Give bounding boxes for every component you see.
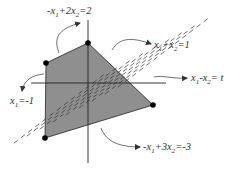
lp-feasible-region-diagram: -x1+2x2=2 x1+x2=1 x1-x2= t x1=-1 -x1+3x2… xyxy=(0,0,243,173)
arrow-to-constraint-bottom xyxy=(101,128,140,147)
arrow-to-objective-line xyxy=(154,76,187,78)
vertex-upper-left xyxy=(43,60,49,66)
objective-level-line xyxy=(105,24,197,94)
label-constraint-bottom: -x1+3x2=-3 xyxy=(143,141,191,155)
feasible-region xyxy=(45,43,153,138)
objective-level-lines xyxy=(14,17,210,143)
label-constraint-top-right: x1+x2=1 xyxy=(153,39,190,53)
vertex-top xyxy=(85,40,91,46)
arrow-to-constraint-left xyxy=(22,74,44,91)
label-constraint-left: x1=-1 xyxy=(9,95,34,109)
arrow-to-constraint-top-right xyxy=(112,39,151,50)
vertex-right xyxy=(150,102,156,108)
label-objective-line: x1-x2= t xyxy=(190,72,225,86)
label-constraint-top-left: -x1+2x2=2 xyxy=(47,5,92,19)
vertex-lower-left xyxy=(42,135,48,141)
